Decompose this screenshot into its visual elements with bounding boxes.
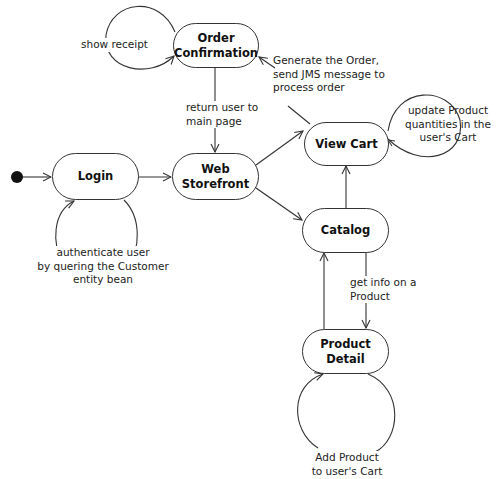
state-catalog[interactable]: Catalog [302,208,389,253]
state-login[interactable]: Login [52,153,139,200]
transition-viewcart-confirmation-tail [288,106,310,124]
label-generate-order: Generate the Order, send JMS message to … [273,54,385,95]
state-order-confirmation[interactable]: Order Confirmation [173,23,259,68]
state-web-storefront[interactable]: Web Storefront [172,153,259,200]
label-get-info: get info on a Product [350,276,416,303]
initial-state-dot [11,171,23,183]
self-loop-productdetail-left [298,374,323,448]
transition-lines [0,0,499,479]
transition-storefront-catalog [256,188,302,220]
label-show-receipt: show receipt [80,38,149,52]
state-view-cart[interactable]: View Cart [304,122,389,166]
label-add-product: Add Product to user's Cart [300,451,394,478]
label-authenticate: authenticate user by quering the Custome… [28,246,178,287]
self-loop-productdetail-right [368,374,395,452]
transition-storefront-viewcart [256,131,303,165]
state-product-detail[interactable]: Product Detail [302,329,389,374]
self-loop-viewcart-arrowhead [388,140,395,146]
label-update-quantities: update Product quantities in the user's … [398,104,498,145]
label-return-user: return user to main page [186,101,258,128]
